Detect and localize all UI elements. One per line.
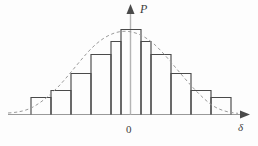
bar-8 xyxy=(151,55,171,115)
bar-7 xyxy=(141,42,151,115)
bar-10 xyxy=(191,91,211,115)
x-axis-label: δ xyxy=(238,121,243,133)
y-axis-arrowhead xyxy=(127,4,135,14)
bar-4 xyxy=(91,55,111,115)
y-axis-label: P xyxy=(140,2,147,17)
origin-tick-label: 0 xyxy=(126,123,132,135)
probability-distribution-figure: P δ 0 xyxy=(0,0,258,146)
bar-2 xyxy=(51,91,71,115)
bar-9 xyxy=(171,74,191,115)
bar-3 xyxy=(71,74,91,115)
gaussian-curve xyxy=(8,31,238,113)
x-axis-arrowhead xyxy=(240,111,250,119)
bar-5 xyxy=(111,42,121,115)
bar-11 xyxy=(211,98,231,115)
bar-1 xyxy=(31,98,51,115)
